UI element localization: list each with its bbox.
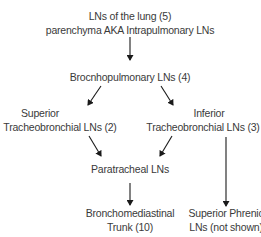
node-paratracheal-line1: Paratracheal LNs (91, 163, 169, 175)
arrow-bronchopulmonary-to-superior (88, 86, 101, 105)
node-superior-tb-line2: Tracheobronchial LNs (2) (3, 121, 116, 133)
node-inferior-tb-line2: Tracheobronchial LNs (3) (146, 121, 259, 133)
node-bronchopulmonary-line1: Brocnhopulmonary LNs (4) (70, 71, 191, 83)
arrow-inferior-to-paratracheal (160, 136, 172, 156)
node-bronchomediastinal-line1: Bronchomediastinal (86, 207, 175, 219)
node-inferior-tb-line1: Inferior (193, 107, 224, 119)
node-lung-line1: LNs of the lung (5) (89, 10, 172, 22)
node-superior-phrenic-line1: Superior Phrenic (188, 207, 261, 219)
node-superior-tb-line1: Superior (21, 107, 59, 119)
node-lung-line2: parenchyma AKA Intrapulmonary LNs (46, 24, 215, 36)
arrow-bronchopulmonary-to-inferior (161, 86, 173, 105)
node-bronchomediastinal-line2: Trunk (10) (107, 221, 153, 233)
node-superior-phrenic-line2: LNs (not shown) (189, 221, 261, 233)
arrow-superior-to-paratracheal (89, 136, 101, 156)
